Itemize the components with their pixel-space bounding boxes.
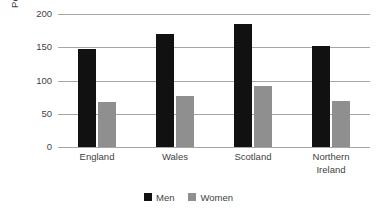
- bar-women-scotland: [254, 86, 272, 147]
- legend-item-women[interactable]: Women: [188, 192, 233, 203]
- bar-group: [310, 14, 352, 147]
- x-tick-label: England: [54, 150, 140, 163]
- bar-group: [232, 14, 274, 147]
- y-tick-label: 150: [28, 42, 52, 52]
- x-tick-label-line: Scotland: [210, 150, 296, 163]
- y-axis-tick-labels: 200150100500: [28, 0, 52, 213]
- bar-men-wales: [156, 34, 174, 147]
- bar-group: [76, 14, 118, 147]
- legend: MenWomen: [0, 189, 377, 205]
- x-tick-label: Wales: [132, 150, 218, 163]
- x-tick-label-line: Northern: [288, 150, 374, 163]
- legend-label: Women: [200, 192, 233, 203]
- x-tick-label: NorthernIreland: [288, 150, 374, 176]
- bar-men-scotland: [234, 24, 252, 147]
- legend-swatch-icon: [144, 193, 152, 201]
- x-tick-label-line: Ireland: [288, 163, 374, 176]
- bar-men-northern-ireland: [312, 46, 330, 147]
- bar-women-wales: [176, 96, 194, 147]
- legend-swatch-icon: [188, 193, 196, 201]
- y-tick-label: 0: [28, 142, 52, 152]
- x-tick-label-line: Wales: [132, 150, 218, 163]
- y-tick-label: 100: [28, 76, 52, 86]
- x-tick-label-line: England: [54, 150, 140, 163]
- y-axis-title: Per 100,000 deaths: [6, 0, 24, 32]
- bar-women-england: [98, 102, 116, 147]
- x-axis-line: [58, 147, 370, 148]
- legend-item-men[interactable]: Men: [144, 192, 174, 203]
- plot-area: [58, 14, 370, 147]
- y-tick-label: 50: [28, 109, 52, 119]
- y-tick-label: 200: [28, 9, 52, 19]
- bar-women-northern-ireland: [332, 101, 350, 147]
- bar-chart: Per 100,000 deaths 200150100500 EnglandW…: [0, 0, 377, 213]
- bar-men-england: [78, 49, 96, 147]
- legend-label: Men: [156, 192, 174, 203]
- bar-group: [154, 14, 196, 147]
- x-tick-label: Scotland: [210, 150, 296, 163]
- x-axis-category-labels: EnglandWalesScotlandNorthernIreland: [58, 150, 370, 184]
